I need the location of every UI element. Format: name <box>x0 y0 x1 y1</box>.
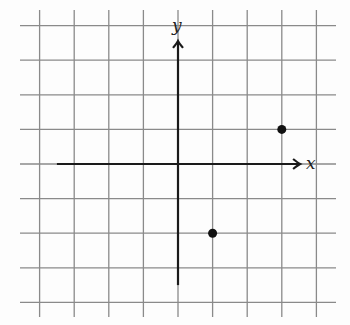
data-point <box>277 125 286 134</box>
y-axis-label: y <box>171 15 182 35</box>
data-point <box>208 229 217 238</box>
x-axis-label: x <box>306 153 316 173</box>
coordinate-plane: x y <box>0 0 350 325</box>
